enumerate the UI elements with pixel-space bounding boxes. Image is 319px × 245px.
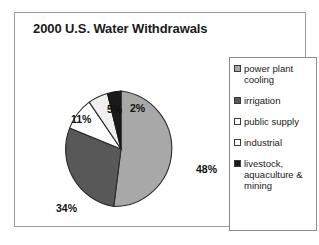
legend-item-livestock-aquaculture-mining[interactable]: livestock, aquaculture & mining [234,158,313,191]
chart-screenshot: 2000 U.S. Water Withdrawals 48% [0,0,319,245]
legend-item-public-supply[interactable]: public supply [234,116,313,127]
legend-item-industrial[interactable]: industrial [234,137,313,148]
legend-label-public-supply: public supply [244,116,299,127]
pie-label-industrial: 5% [107,103,122,115]
legend-swatch-icon-power-plant-cooling [234,65,241,72]
legend-swatch-icon-public-supply [234,118,241,125]
legend-label-irrigation: irrigation [244,95,280,106]
legend-swatch-icon-irrigation [234,97,241,104]
pie-label-power-plant-cooling: 48% [196,163,217,175]
legend-label-livestock-aquaculture-mining: livestock, aquaculture & mining [244,158,303,191]
chart-legend: power plant cooling irrigation public su… [229,57,317,231]
pie-label-public-supply: 11% [71,113,91,125]
legend-swatch-icon-industrial [234,139,241,146]
pie-label-irrigation: 34% [56,202,77,214]
pie-label-livestock-aquaculture-mining: 2% [130,102,145,114]
legend-swatch-icon-livestock-aquaculture-mining [234,160,241,167]
legend-label-power-plant-cooling: power plant cooling [244,63,293,85]
pie-plot-area: 48% 34% 11% 5% 2% [15,41,211,227]
chart-title: 2000 U.S. Water Withdrawals [33,21,207,36]
legend-item-irrigation[interactable]: irrigation [234,95,313,106]
chart-frame: 2000 U.S. Water Withdrawals 48% [14,12,306,227]
legend-item-power-plant-cooling[interactable]: power plant cooling [234,63,313,85]
legend-label-industrial: industrial [244,137,282,148]
